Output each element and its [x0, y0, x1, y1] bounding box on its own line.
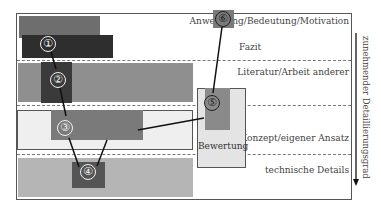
line-2-3	[60, 88, 66, 116]
line-5-6	[213, 27, 222, 93]
line-4-back	[97, 140, 107, 166]
line-3-5	[138, 118, 204, 130]
flow-lines	[0, 0, 381, 210]
line-3-4	[69, 138, 79, 167]
axis-label-detail: zunehmender Detaillierungsgrad	[361, 36, 371, 179]
detail-axis-arrow	[353, 33, 359, 186]
line-1-2	[51, 52, 56, 69]
